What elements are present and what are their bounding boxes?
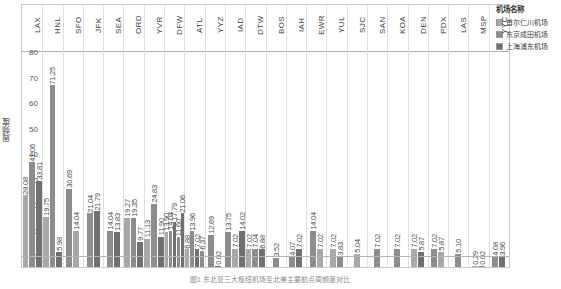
bar[interactable]: 6.88 [185,249,189,267]
bar-fill [94,211,100,267]
figure-caption: 图1 东北亚三大枢纽机场至北美主要航点周频度对比 [30,274,510,284]
bar[interactable]: 33.81 [36,181,42,267]
bar-value-label: 5.87 [437,237,446,251]
bar[interactable]: 5.87 [418,252,424,267]
bar[interactable]: 11.60 [177,237,180,267]
bar-fill [185,249,189,267]
bar[interactable]: 7.02 [296,249,302,267]
bar[interactable]: 21.79 [94,211,100,267]
bar-fill [114,232,120,267]
bar-fill [479,266,485,267]
bar[interactable]: 7.02 [246,249,252,267]
bar[interactable]: 19.35 [131,218,137,267]
bar[interactable]: 4.08 [492,257,498,267]
bar-group-las: 5.10 [448,63,468,267]
bar-value-label: 3.52 [271,243,280,257]
bar[interactable]: 7.02 [195,249,199,267]
bar-fill [200,251,204,267]
bar[interactable]: 6.37 [200,251,204,267]
bar[interactable]: 14.04 [107,231,113,267]
bar[interactable]: 7.02 [431,249,437,267]
bar[interactable]: 19.27 [124,218,130,267]
column-header-yul: YUL [326,4,346,46]
bar-fill [232,249,238,267]
bar[interactable]: 7.02 [317,249,323,267]
bar[interactable]: 19.75 [43,217,49,267]
bar-group-yul: 7.023.83 [326,63,346,267]
bar-fill [472,266,478,267]
bar-fill [492,257,498,267]
bar-group-den: 7.025.87 [408,63,428,267]
column-header-yyc: YYC [489,4,509,46]
bar[interactable]: 4.07 [289,257,295,267]
bar-value-label: 14.04 [308,212,317,230]
column-header-koa: KOA [387,4,407,46]
bar-value-label: 19.35 [129,199,138,217]
bar[interactable]: 9.77 [137,242,143,267]
bar-group-yyz: 12.690.02 [205,63,225,267]
bar[interactable]: 13.90 [165,232,168,267]
column-header-san: SAN [367,4,387,46]
bar[interactable]: 3.96 [499,257,505,267]
column-header-yvr: YVR [144,4,164,46]
bar-group-sfo: 30.6914.04 [63,63,83,267]
bar[interactable]: 21.04 [87,213,93,267]
bar-fill [165,232,168,267]
bar-fill [137,242,143,267]
bar-value-label: 7.02 [373,234,382,248]
bar[interactable]: 14.04 [73,231,79,267]
bar-group-lax: 28.0841.0633.81 [22,63,42,267]
bar-value-label: 0.02 [478,251,487,265]
bar-value-label: 14.04 [72,212,81,230]
bar[interactable]: 7.02 [232,249,238,267]
bar[interactable]: 3.83 [337,257,343,267]
column-header-atl: ATL [184,4,204,46]
bar[interactable]: 7.02 [411,249,417,267]
bar-value-label: 5.87 [417,237,426,251]
bar[interactable]: 13.83 [114,232,120,267]
bar[interactable]: 11.13 [144,239,150,267]
column-header-ord: ORD [123,4,143,46]
bar-group-dtw: 7.027.046.88 [245,63,265,267]
bar-value-label: 13.75 [224,213,233,231]
bar-fill [252,249,258,267]
legend-item-label: 首尔仁川机场 [506,17,548,27]
bar-group-sea: 14.0413.83 [103,63,123,267]
bar[interactable]: 7.04 [252,249,258,267]
bar-fill [394,249,400,267]
bar[interactable]: 0.02 [479,266,485,267]
bar-fill [418,252,424,267]
bar[interactable]: 14.04 [169,231,172,267]
bar-fill [259,249,265,267]
bar[interactable]: 6.88 [259,249,265,267]
bar-group-bos: 3.52 [266,63,286,267]
bar[interactable]: 24.83 [151,204,157,267]
bar-value-label: 13.83 [112,213,121,231]
bar[interactable]: 11.90 [158,237,164,267]
bar-group-dfw: 13.9014.0417.7911.6021.06 [164,63,184,267]
bar[interactable]: 3.52 [273,258,279,267]
bar[interactable]: 5.98 [56,252,62,267]
bar[interactable]: 0.29 [472,266,478,267]
bar-group-sjc: 5.04 [347,63,367,267]
bar[interactable]: 7.02 [374,249,380,267]
bar-value-label: 0.02 [214,251,223,265]
bar[interactable]: 7.02 [394,249,400,267]
bar-group-iad: 13.757.0214.02 [225,63,245,267]
bar[interactable]: 0.02 [215,266,221,267]
bar-group-ord: 19.2719.359.77 [123,63,143,267]
bar-fill [411,249,417,267]
bar-fill [131,218,137,267]
bar-value-label: 41.06 [28,144,37,162]
bar-chart: 周频度 01020304050607080 28.0841.0633.8119.… [0,0,561,289]
bar-fill [289,257,295,267]
bar-fill [144,239,150,267]
bar-value-label: 7.02 [393,234,402,248]
bar-group-san: 7.02 [367,63,387,267]
bar-fill [431,249,437,267]
column-header-iad: IAD [225,4,245,46]
bar-fill [151,204,157,267]
bar-fill [296,249,302,267]
bar[interactable]: 5.87 [438,252,444,267]
column-header-lax: LAX [22,4,42,46]
